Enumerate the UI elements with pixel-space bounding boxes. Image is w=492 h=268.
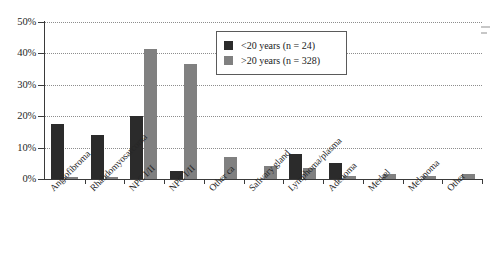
legend-item-young: <20 years (n = 24) <box>224 38 339 52</box>
legend-label-old: >20 years (n = 328) <box>241 55 320 66</box>
y-axis-label: 20% <box>2 111 36 121</box>
x-axis-tick <box>363 179 364 184</box>
bar-chart: 0%10%20%30%40%50% AngiofibromaRhabdomyos… <box>0 0 492 268</box>
bar-old <box>184 64 197 179</box>
y-axis-label: 0% <box>2 174 36 184</box>
x-axis-tick <box>124 179 125 184</box>
x-axis-tick <box>204 179 205 184</box>
x-axis-tick <box>323 179 324 184</box>
x-axis-tick <box>442 179 443 184</box>
bar-old <box>144 49 157 179</box>
page-edge-artifact <box>481 26 490 52</box>
x-axis-tick <box>283 179 284 184</box>
x-axis-tick <box>403 179 404 184</box>
bar-group <box>367 22 407 179</box>
bar-group <box>407 22 447 179</box>
y-axis-label: 10% <box>2 143 36 153</box>
legend-item-old: >20 years (n = 328) <box>224 53 339 67</box>
y-axis-label: 40% <box>2 48 36 58</box>
legend-swatch-old <box>224 56 233 65</box>
bar-group <box>168 22 208 179</box>
chart-legend: <20 years (n = 24) >20 years (n = 328) <box>216 31 347 75</box>
x-axis-tick <box>85 179 86 184</box>
legend-label-young: <20 years (n = 24) <box>241 40 315 51</box>
legend-swatch-young <box>224 41 233 50</box>
x-axis-tick <box>244 179 245 184</box>
bar-group <box>128 22 168 179</box>
x-axis-tick <box>482 179 483 184</box>
x-axis-tick <box>164 179 165 184</box>
y-axis-label: 50% <box>2 17 36 27</box>
y-axis-label: 30% <box>2 80 36 90</box>
